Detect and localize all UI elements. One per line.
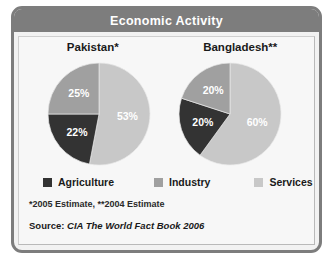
pie-slices-bangladesh [179, 63, 281, 165]
pie-slice-label-services: 53% [117, 110, 139, 122]
pie-slice-label-industry: 25% [68, 87, 90, 99]
source-line: Source: CIA The World Fact Book 2006 [29, 220, 204, 231]
pie-slice-label-agriculture: 20% [192, 116, 214, 128]
source-label: Source: [29, 220, 64, 231]
pie-chart-bangladesh: 60%20%20% [177, 61, 283, 167]
pie-chart-pakistan-svg: 53%22%25% [46, 61, 152, 167]
source-text: CIA The World Fact Book 2006 [67, 220, 204, 231]
chart-title-bangladesh: Bangladesh** [167, 41, 315, 53]
chart-titles-row: Pakistan* Bangladesh** [19, 41, 314, 53]
footnote-text: *2005 Estimate, **2004 Estimate [29, 199, 165, 209]
legend-item-services: Services [254, 176, 312, 188]
chart-legend: Agriculture Industry Services [29, 176, 304, 188]
legend-swatch-agriculture [43, 178, 52, 187]
legend-item-agriculture: Agriculture [43, 176, 114, 188]
page-title: Economic Activity [110, 14, 223, 28]
legend-swatch-industry [154, 178, 163, 187]
pie-slice-label-agriculture: 22% [66, 126, 88, 138]
pie-chart-pakistan: 53%22%25% [46, 61, 152, 167]
chart-panel: Pakistan* Bangladesh** 53%22%25% 60%20%2… [18, 36, 315, 245]
legend-swatch-services [254, 178, 263, 187]
pie-slice-label-industry: 20% [203, 84, 225, 96]
economic-activity-figure: Economic Activity Pakistan* Bangladesh**… [11, 6, 322, 253]
chart-title-pakistan: Pakistan* [19, 41, 167, 53]
pie-chart-bangladesh-svg: 60%20%20% [177, 61, 283, 167]
legend-item-industry: Industry [154, 176, 210, 188]
pie-slice-label-services: 60% [247, 116, 269, 128]
figure-header-bar: Economic Activity [14, 9, 319, 32]
legend-label-agriculture: Agriculture [58, 176, 114, 188]
legend-label-services: Services [269, 176, 312, 188]
legend-label-industry: Industry [169, 176, 210, 188]
